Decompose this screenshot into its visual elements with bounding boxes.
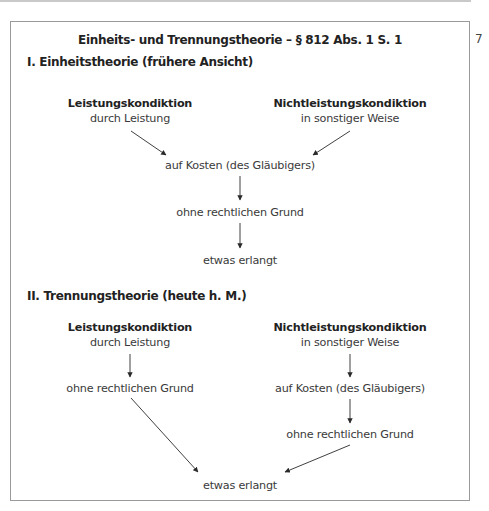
section-2-right-branch-title: Nichtleistungskondiktion bbox=[273, 321, 426, 335]
section-2-right-branch-step-2: ohne rechtlichen Grund bbox=[286, 428, 413, 442]
section-2-heading: II. Trennungstheorie (heute h. M.) bbox=[27, 289, 246, 303]
section-2-left-branch-step-1: ohne rechtlichen Grund bbox=[66, 382, 193, 396]
section-1-result-node: etwas erlangt bbox=[203, 254, 277, 268]
section-2-right-branch-step-1: auf Kosten (des Gläubigers) bbox=[275, 382, 425, 396]
top-rule-divider bbox=[0, 0, 471, 2]
section-1-left-node-title: Leistungskondiktion bbox=[68, 97, 192, 111]
section-2-right-branch-subtitle: in sonstiger Weise bbox=[301, 336, 400, 350]
section-2-left-branch-subtitle: durch Leistung bbox=[90, 336, 170, 350]
section-1-right-node-subtitle: in sonstiger Weise bbox=[301, 112, 400, 126]
section-1-left-node-subtitle: durch Leistung bbox=[90, 112, 170, 126]
margin-number: 7 bbox=[475, 32, 483, 46]
section-1-merge-node: auf Kosten (des Gläubigers) bbox=[165, 159, 315, 173]
section-2-left-branch-title: Leistungskondiktion bbox=[68, 321, 192, 335]
section-1-right-node-title: Nichtleistungskondiktion bbox=[273, 97, 426, 111]
section-1-heading: I. Einheitstheorie (frühere Ansicht) bbox=[27, 55, 253, 69]
section-2-result-node: etwas erlangt bbox=[203, 479, 277, 493]
section-1-middle-node: ohne rechtlichen Grund bbox=[176, 206, 303, 220]
diagram-title: Einheits- und Trennungstheorie – § 812 A… bbox=[78, 33, 402, 47]
